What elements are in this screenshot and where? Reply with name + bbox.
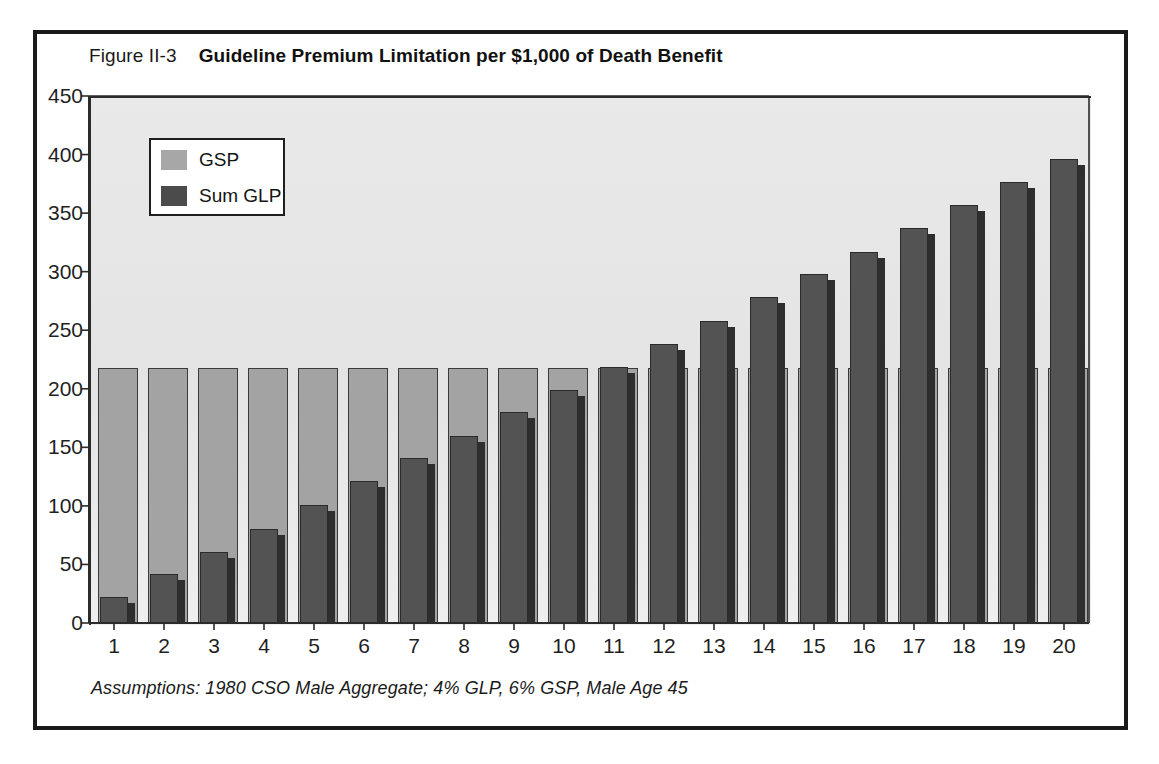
x-tick-label: 13 (702, 634, 725, 658)
figure-header: Figure II-3 Guideline Premium Limitation… (89, 45, 723, 67)
x-tick-label: 4 (258, 634, 270, 658)
bar-sum-glp (450, 436, 478, 623)
bar-sum-glp (950, 205, 978, 623)
y-tick-label: 0 (37, 611, 83, 635)
x-tick-label: 1 (108, 634, 120, 658)
x-tick-label: 20 (1052, 634, 1075, 658)
y-tick-label: 350 (37, 201, 83, 225)
x-tick-label: 14 (752, 634, 775, 658)
x-tick-label: 16 (852, 634, 875, 658)
x-tick-label: 15 (802, 634, 825, 658)
x-tick-label: 8 (458, 634, 470, 658)
bar-sum-glp (1000, 182, 1028, 624)
x-tick-label: 9 (508, 634, 520, 658)
bar-sum-glp (400, 458, 428, 623)
bar-sum-glp (100, 597, 128, 623)
y-tick-label: 50 (37, 552, 83, 576)
figure-frame: Figure II-3 Guideline Premium Limitation… (33, 30, 1128, 730)
bar-sum-glp (500, 412, 528, 623)
y-tick-label: 100 (37, 494, 83, 518)
x-tick-label: 6 (358, 634, 370, 658)
x-tick-label: 19 (1002, 634, 1025, 658)
bar-sum-glp (750, 297, 778, 623)
chart-canvas: Figure II-3 Guideline Premium Limitation… (37, 34, 1132, 734)
bar-sum-glp (650, 344, 678, 623)
bar-sum-glp (700, 321, 728, 623)
x-tick-label: 18 (952, 634, 975, 658)
bar-gsp (98, 368, 138, 623)
bar-sum-glp (300, 505, 328, 623)
x-tick-label: 5 (308, 634, 320, 658)
x-tick-label: 10 (552, 634, 575, 658)
bar-sum-glp (200, 552, 228, 623)
x-tick-label: 2 (158, 634, 170, 658)
x-axis-tick-labels: 1234567891011121314151617181920 (89, 634, 1089, 668)
page-title: Guideline Premium Limitation per $1,000 … (199, 45, 723, 67)
legend-swatch-gsp-icon (161, 150, 187, 170)
legend-label-sum-glp: Sum GLP (199, 185, 281, 207)
bar-sum-glp (600, 367, 628, 623)
bar-sum-glp (350, 481, 378, 623)
bar-sum-glp (850, 252, 878, 623)
bar-sum-glp (150, 574, 178, 623)
chart-legend: GSP Sum GLP (149, 138, 285, 216)
x-tick-label: 3 (208, 634, 220, 658)
bar-sum-glp (250, 529, 278, 623)
legend-swatch-sum-glp-icon (161, 186, 187, 206)
chart-footnote: Assumptions: 1980 CSO Male Aggregate; 4%… (91, 678, 688, 699)
y-tick-label: 250 (37, 318, 83, 342)
bar-sum-glp (900, 228, 928, 623)
x-tick-label: 17 (902, 634, 925, 658)
legend-item-gsp: GSP (161, 148, 239, 172)
y-tick-label: 450 (37, 84, 83, 108)
legend-item-sum-glp: Sum GLP (161, 184, 281, 208)
bar-sum-glp (550, 390, 578, 623)
y-tick-label: 150 (37, 435, 83, 459)
y-tick-label: 300 (37, 260, 83, 284)
figure-number-label: Figure II-3 (89, 45, 177, 67)
x-tick-label: 12 (652, 634, 675, 658)
y-tick-label: 400 (37, 143, 83, 167)
y-tick-label: 200 (37, 377, 83, 401)
x-tick-label: 11 (603, 634, 625, 658)
bar-sum-glp (1050, 159, 1078, 623)
legend-label-gsp: GSP (199, 149, 239, 171)
x-tick-label: 7 (408, 634, 420, 658)
y-axis-tick-labels: 050100150200250300350400450 (37, 96, 83, 623)
bar-sum-glp (800, 274, 828, 623)
